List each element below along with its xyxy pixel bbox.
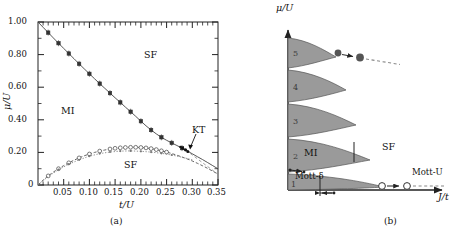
xtick-label-0-20: 0.20: [130, 188, 149, 197]
region-label-mi: MI: [304, 148, 317, 158]
mott-lobes: [288, 38, 384, 190]
ytick-label-0-20: 0.20: [8, 147, 27, 156]
panel-a-plot: [0, 0, 232, 236]
xtick-label-0-10: 0.10: [79, 188, 98, 197]
lobe-number-5: 5: [293, 49, 298, 58]
panel-a: 1.00 0.80 0.60 0.40 0.20 0 0.05 0.10 0.1…: [0, 0, 232, 236]
open-circle-trajectory: [379, 183, 444, 190]
ytick-label-0-80: 0.80: [8, 50, 27, 59]
kt-guide-dashed: [186, 150, 218, 174]
panel-b-xlabel: J/t: [438, 192, 449, 202]
mott-lobe-3: [288, 104, 356, 137]
panel-a-xlabel: t/U: [119, 200, 134, 210]
region-label-sf-upper: SF: [144, 50, 157, 60]
lobe-number-4: 4: [293, 83, 298, 92]
region-label-sf-lower: SF: [124, 160, 137, 170]
panel-b-ylabel: μ/U: [276, 3, 293, 13]
lobe-number-2: 2: [293, 152, 298, 161]
mott-delta-label: Mott-δ: [295, 172, 324, 181]
xtick-label-0-05: 0.05: [53, 188, 72, 197]
mott-lobe-2: [288, 139, 370, 172]
kt-arrow-icon: [188, 134, 196, 149]
hole-branch-dotted-markers: [57, 150, 172, 171]
figure-root: 1.00 0.80 0.60 0.40 0.20 0 0.05 0.10 0.1…: [0, 0, 459, 236]
ytick-label-0-40: 0.40: [8, 115, 27, 124]
xtick-label-0-25: 0.25: [156, 188, 175, 197]
panel-a-caption: (a): [110, 216, 122, 226]
ytick-label-1-00: 1.00: [8, 17, 27, 26]
ytick-label-0-60: 0.60: [8, 82, 27, 91]
kt-point-label: KT: [192, 125, 205, 135]
region-label-sf: SF: [382, 142, 395, 152]
panel-b-caption: (b): [384, 216, 397, 226]
panel-b-plot: 5 4 3 2 1: [232, 0, 459, 236]
mott-u-label: Mott-U: [412, 168, 443, 177]
xtick-label-0-35: 0.35: [207, 188, 226, 197]
ytick-label-0: 0: [28, 180, 33, 189]
xtick-label-0-15: 0.15: [104, 188, 123, 197]
particle-branch-markers: [47, 30, 184, 152]
xtick-label-0-30: 0.30: [182, 188, 201, 197]
panel-a-ylabel: μ/U: [2, 93, 12, 110]
lobe-number-3: 3: [293, 117, 298, 126]
hole-branch-markers: [46, 145, 168, 177]
lobe-number-1: 1: [291, 180, 296, 189]
panel-b: 5 4 3 2 1: [232, 0, 459, 236]
region-label-mi: MI: [61, 106, 74, 116]
filled-circle-trajectory: [335, 50, 400, 65]
